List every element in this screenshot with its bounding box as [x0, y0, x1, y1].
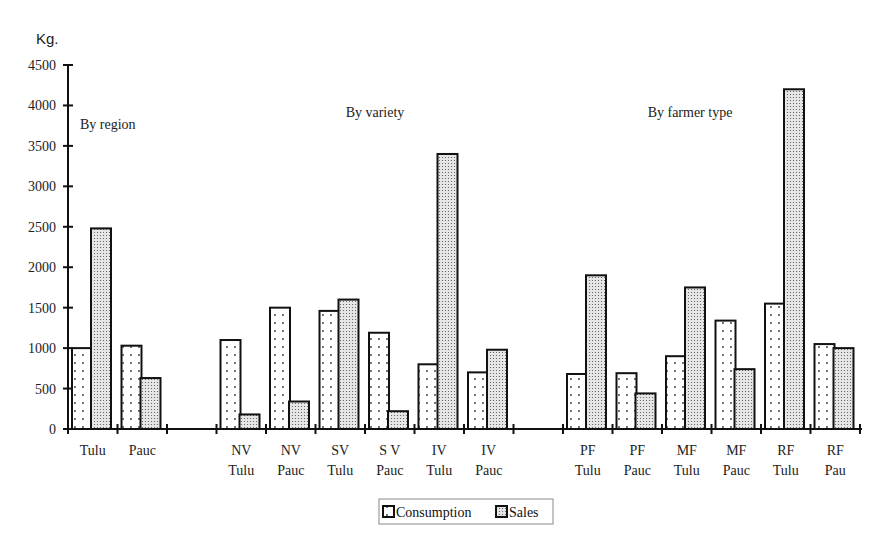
group-titles: By regionBy varietyBy farmer type — [80, 105, 732, 132]
y-tick-label: 0 — [49, 422, 56, 437]
bar-sales-13 — [735, 369, 755, 429]
x-category-label: IV — [481, 443, 496, 458]
bar-sales-4 — [289, 401, 309, 429]
bar-consumption-3 — [221, 340, 241, 429]
category-labels: TuluPaucNVTuluNVPaucSVTuluS VPaucIVTuluI… — [80, 443, 846, 478]
legend-label-sales: Sales — [509, 505, 539, 520]
y-axis-unit-label: Kg. — [36, 30, 59, 47]
y-tick-label: 4000 — [28, 98, 56, 113]
bar-sales-6 — [388, 411, 408, 429]
x-category-label: Pauc — [277, 463, 304, 478]
x-category-label: NV — [281, 443, 301, 458]
y-tick-label: 1500 — [28, 301, 56, 316]
y-tick-label: 500 — [35, 382, 56, 397]
group-title: By farmer type — [648, 105, 733, 120]
x-category-label: Pauc — [624, 463, 651, 478]
y-tick-label: 3500 — [28, 139, 56, 154]
x-category-label: PF — [580, 443, 596, 458]
x-category-label: Tulu — [327, 463, 353, 478]
bar-consumption-6 — [369, 333, 389, 429]
x-category-label: RF — [777, 443, 794, 458]
bar-sales-15 — [834, 348, 854, 429]
bar-sales-3 — [240, 414, 260, 429]
x-category-label: Tulu — [773, 463, 799, 478]
x-category-label: Tulu — [575, 463, 601, 478]
x-category-label: IV — [432, 443, 447, 458]
bar-consumption-13 — [716, 321, 736, 429]
bar-sales-8 — [487, 350, 507, 429]
bar-consumption-10 — [567, 374, 587, 429]
legend-swatch-consumption — [383, 506, 394, 517]
x-category-label: Pauc — [475, 463, 502, 478]
bar-consumption-15 — [815, 344, 835, 429]
y-tick-label: 2500 — [28, 220, 56, 235]
bar-consumption-11 — [617, 373, 637, 429]
bars — [72, 89, 854, 429]
y-tick-label: 3000 — [28, 179, 56, 194]
x-category-label: Tulu — [426, 463, 452, 478]
bar-sales-5 — [339, 300, 359, 429]
bar-consumption-14 — [765, 304, 785, 429]
bar-consumption-4 — [270, 308, 290, 429]
y-tick-label: 1000 — [28, 341, 56, 356]
x-category-label: Pauc — [129, 443, 156, 458]
bar-sales-11 — [636, 393, 656, 429]
bar-consumption-7 — [419, 364, 439, 429]
x-category-label: Pauc — [376, 463, 403, 478]
x-category-label: RF — [827, 443, 844, 458]
bar-sales-7 — [438, 154, 458, 429]
x-category-label: Pauc — [723, 463, 750, 478]
y-tick-label: 2000 — [28, 260, 56, 275]
bar-sales-1 — [141, 378, 161, 429]
y-axis: 050010001500200025003000350040004500 — [28, 58, 73, 437]
group-title: By region — [80, 117, 136, 132]
y-tick-label: 4500 — [28, 58, 56, 73]
x-category-label: PF — [629, 443, 645, 458]
bar-consumption-5 — [320, 311, 340, 429]
bar-consumption-8 — [468, 372, 488, 429]
x-category-label: Tulu — [80, 443, 106, 458]
bar-consumption-0 — [72, 348, 92, 429]
bar-sales-12 — [685, 287, 705, 429]
legend-swatch-sales — [496, 506, 507, 517]
bar-chart: Kg. 050010001500200025003000350040004500… — [0, 0, 879, 543]
x-category-label: Tulu — [674, 463, 700, 478]
bar-sales-14 — [784, 89, 804, 429]
legend: Consumption Sales — [379, 499, 553, 524]
x-category-label: Tulu — [228, 463, 254, 478]
x-category-label: MF — [677, 443, 697, 458]
group-title: By variety — [346, 105, 405, 120]
x-category-label: SV — [331, 443, 349, 458]
bar-consumption-12 — [666, 356, 686, 429]
bar-sales-0 — [91, 228, 111, 429]
bar-sales-10 — [586, 275, 606, 429]
x-category-label: S V — [379, 443, 400, 458]
x-category-label: MF — [726, 443, 746, 458]
x-category-label: Pau — [825, 463, 846, 478]
bar-consumption-1 — [122, 346, 142, 429]
x-category-label: NV — [231, 443, 251, 458]
legend-label-consumption: Consumption — [396, 505, 471, 520]
